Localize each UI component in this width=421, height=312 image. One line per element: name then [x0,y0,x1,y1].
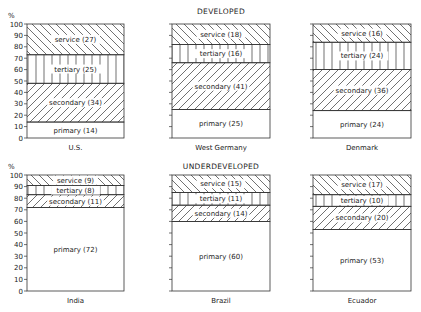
svg-text:30: 30 [14,253,23,261]
svg-text:tertiary (25): tertiary (25) [54,66,97,74]
svg-text:Ecuador: Ecuador [348,297,377,305]
svg-text:primary (25): primary (25) [199,120,243,128]
svg-text:20: 20 [14,112,23,120]
svg-text:70: 70 [14,55,23,63]
svg-text:primary (60): primary (60) [199,253,243,261]
stacked-bar-charts: %0102030405060708090100primary (14)secon… [0,0,421,312]
svg-text:60: 60 [14,218,23,226]
bar-india: primary (72)secondary (11)tertiary (8)se… [24,175,124,291]
svg-text:tertiary (8): tertiary (8) [56,187,94,195]
svg-text:India: India [67,297,84,305]
svg-text:primary (72): primary (72) [54,246,98,254]
svg-text:100: 100 [10,172,23,180]
bar-u-s-: primary (14)secondary (34)tertiary (25)s… [24,24,124,138]
svg-text:service (16): service (16) [341,30,383,38]
svg-text:50: 50 [14,78,23,86]
svg-text:100: 100 [10,21,23,29]
svg-text:secondary (14): secondary (14) [195,210,248,218]
bar-brazil: primary (60)secondary (14)tertiary (11)s… [169,175,270,291]
chart-figure: DEVELOPED UNDERDEVELOPED %01020304050607… [0,0,421,312]
svg-text:primary (14): primary (14) [54,127,98,135]
svg-text:60: 60 [14,66,23,74]
svg-text:80: 80 [14,195,23,203]
svg-text:secondary (20): secondary (20) [336,214,389,222]
svg-text:%: % [8,12,15,20]
svg-text:Brazil: Brazil [211,297,231,305]
svg-text:secondary (34): secondary (34) [49,99,102,107]
svg-text:service (9): service (9) [57,177,94,185]
svg-text:tertiary (11): tertiary (11) [200,195,243,203]
svg-text:primary (53): primary (53) [340,257,384,265]
svg-text:70: 70 [14,206,23,214]
svg-text:tertiary (16): tertiary (16) [200,50,243,58]
svg-text:90: 90 [14,32,23,40]
svg-text:service (17): service (17) [341,181,383,189]
bar-west-germany: primary (25)secondary (41)tertiary (16)s… [169,24,270,138]
svg-text:West Germany: West Germany [195,144,247,152]
svg-text:30: 30 [14,100,23,108]
svg-text:tertiary (24): tertiary (24) [341,52,384,60]
svg-text:40: 40 [14,89,23,97]
svg-text:service (18): service (18) [200,31,242,39]
svg-text:service (15): service (15) [200,180,242,188]
svg-text:tertiary (10): tertiary (10) [341,197,384,205]
svg-text:10: 10 [14,123,23,131]
svg-text:U.S.: U.S. [68,144,82,152]
svg-text:80: 80 [14,43,23,51]
svg-text:service (27): service (27) [55,36,97,44]
svg-text:secondary (11): secondary (11) [49,198,102,206]
svg-text:40: 40 [14,241,23,249]
svg-text:0: 0 [19,135,23,143]
svg-text:primary (24): primary (24) [340,121,384,129]
svg-text:secondary (41): secondary (41) [195,83,248,91]
svg-text:0: 0 [19,288,23,296]
svg-text:10: 10 [14,276,23,284]
svg-text:50: 50 [14,230,23,238]
svg-text:20: 20 [14,264,23,272]
bar-denmark: primary (24)secondary (36)tertiary (24)s… [310,24,411,138]
svg-text:90: 90 [14,183,23,191]
svg-text:secondary (36): secondary (36) [336,87,389,95]
bar-ecuador: primary (53)secondary (20)tertiary (10)s… [310,175,411,291]
svg-text:Denmark: Denmark [346,144,379,152]
svg-text:%: % [8,163,15,171]
